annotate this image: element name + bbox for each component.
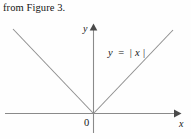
equation-bar-right: |	[143, 47, 145, 58]
figure-page: from Figure 3. y x 0 y	[0, 0, 191, 139]
equation-equals: =	[118, 47, 124, 58]
y-axis-arrow-icon	[90, 24, 98, 31]
equation-argument: x	[134, 47, 140, 58]
curve-left-branch	[13, 29, 94, 114]
equation-bar-left: |	[130, 47, 132, 58]
x-axis-label: x	[178, 118, 184, 129]
origin-label: 0	[84, 117, 89, 128]
svg-text:y = |: y = | x |	[107, 47, 145, 58]
absolute-value-graph: y x 0 y = | x |	[0, 16, 191, 139]
x-axis-arrow-icon	[174, 110, 182, 118]
graph-svg: y x 0 y = | x |	[0, 16, 191, 139]
y-axis-label: y	[82, 23, 88, 34]
curve-right-branch	[94, 30, 174, 114]
caption-text: from Figure 3.	[3, 1, 65, 14]
curve-equation-label: y = | x |	[107, 47, 145, 58]
equation-lhs: y	[107, 47, 113, 58]
